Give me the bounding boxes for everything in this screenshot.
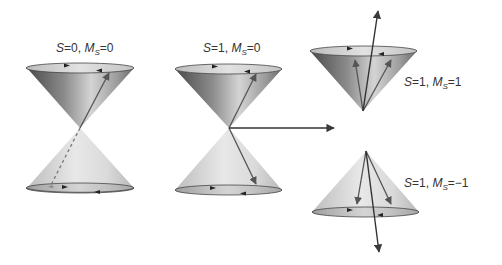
upper-cone (175, 64, 282, 128)
panel-singlet: S=0, MS=0 (26, 41, 134, 194)
label-singlet: S=0, MS=0 (56, 41, 114, 57)
label-triplet-plus1: S=1, MS=1 (404, 75, 462, 91)
upper-cone (26, 63, 134, 128)
label-triplet-minus1: S=1, MS=−1 (404, 176, 469, 192)
panel-triplet-minus1: S=1, MS=−1 (312, 151, 469, 252)
lower-cone (26, 128, 134, 194)
spin-cones-diagram: S=0, MS=0 S=1, MS=0 (0, 0, 502, 265)
label-triplet-0: S=1, MS=0 (203, 41, 261, 57)
lower-cone (312, 151, 419, 252)
panel-triplet-plus1: S=1, MS=1 (310, 11, 462, 111)
lower-cone (175, 128, 282, 196)
upper-cone (310, 11, 417, 111)
panel-triplet-0: S=1, MS=0 (175, 41, 334, 196)
